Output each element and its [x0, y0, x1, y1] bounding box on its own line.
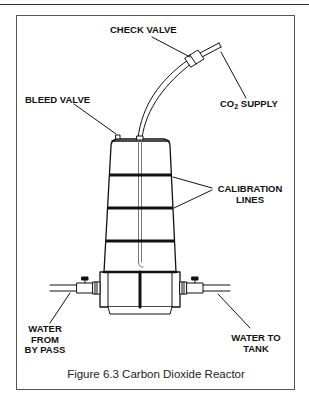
outlet-valve-icon — [180, 277, 230, 294]
check-valve-leader — [152, 37, 190, 57]
water-from-leader — [50, 293, 70, 323]
label-water-to-tank: WATER TO TANK — [228, 333, 284, 354]
calibration-line1: CALIBRATION — [212, 184, 288, 195]
water-to-line1: WATER TO — [228, 333, 284, 344]
water-from-line1: WATER — [22, 324, 68, 335]
calibration-line2: LINES — [212, 195, 288, 206]
figure-caption: Figure 6.3 Carbon Dioxide Reactor — [16, 368, 296, 380]
label-check-valve: CHECK VALVE — [110, 25, 177, 36]
water-to-leader — [218, 294, 250, 328]
water-from-line3: BY PASS — [22, 345, 68, 356]
co2-tube — [138, 43, 221, 138]
label-bleed-valve: BLEED VALVE — [25, 95, 90, 106]
inlet-valve-icon — [50, 277, 100, 294]
bleed-valve-leader — [74, 104, 116, 134]
label-calibration-lines: CALIBRATION LINES — [212, 184, 288, 205]
reactor-body — [104, 135, 176, 272]
water-to-line2: TANK — [228, 344, 284, 355]
co2-suffix: SUPPLY — [238, 98, 278, 109]
co2-prefix: CO — [220, 98, 234, 109]
calibration-leader-1 — [173, 177, 212, 188]
label-water-from-bypass: WATER FROM BY PASS — [22, 324, 68, 356]
label-co2-supply: CO2 SUPPLY — [220, 99, 278, 113]
calibration-leader-2 — [174, 190, 212, 208]
reactor-base — [100, 272, 180, 314]
co2-supply-leader — [221, 52, 246, 98]
